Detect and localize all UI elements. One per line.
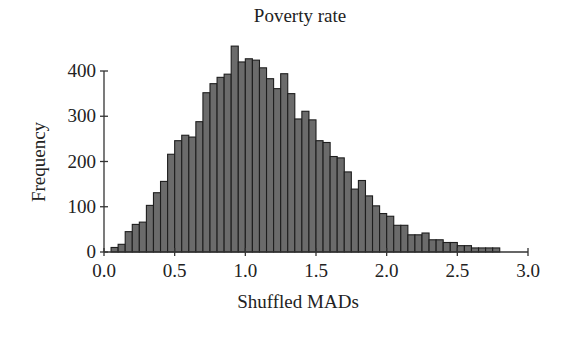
histogram-bar bbox=[274, 89, 281, 252]
histogram-bar bbox=[118, 244, 125, 252]
histogram-bar bbox=[146, 205, 153, 252]
y-axis: 0100200300400 bbox=[68, 60, 109, 262]
histogram-bar bbox=[267, 79, 274, 252]
histogram-bar bbox=[175, 141, 182, 252]
histogram-bar bbox=[373, 206, 380, 252]
histogram-bar bbox=[394, 225, 401, 252]
x-tick-label: 0.5 bbox=[163, 260, 187, 281]
histogram-bar bbox=[281, 74, 288, 252]
histogram-bar bbox=[464, 246, 471, 252]
x-tick-label: 1.0 bbox=[233, 260, 257, 281]
histogram-bars bbox=[111, 46, 500, 252]
histogram-bar bbox=[457, 246, 464, 252]
histogram-bar bbox=[224, 74, 231, 252]
histogram-bar bbox=[196, 122, 203, 252]
y-tick-label: 100 bbox=[68, 196, 97, 217]
histogram-bar bbox=[330, 157, 337, 252]
histogram-bar bbox=[288, 94, 295, 252]
histogram-bar bbox=[323, 143, 330, 253]
histogram-bar bbox=[217, 77, 224, 252]
x-axis: 0.00.51.01.52.02.53.0 bbox=[92, 248, 540, 281]
y-tick-label: 200 bbox=[68, 151, 97, 172]
x-tick-label: 1.5 bbox=[304, 260, 328, 281]
histogram-bar bbox=[337, 158, 344, 252]
y-tick-label: 300 bbox=[68, 105, 97, 126]
histogram-bar bbox=[387, 216, 394, 252]
histogram-bar bbox=[203, 93, 210, 252]
histogram-bar bbox=[231, 46, 238, 252]
histogram-bar bbox=[259, 68, 266, 252]
histogram-bar bbox=[295, 119, 302, 252]
x-axis-label: Shuffled MADs bbox=[237, 291, 359, 312]
histogram-bar bbox=[168, 154, 175, 252]
x-tick-label: 3.0 bbox=[516, 260, 540, 281]
histogram-bar bbox=[358, 181, 365, 253]
histogram-bar bbox=[450, 243, 457, 253]
histogram-bar bbox=[245, 59, 252, 252]
histogram-bar bbox=[365, 196, 372, 252]
histogram-bar bbox=[415, 235, 422, 252]
histogram-bar bbox=[302, 111, 309, 252]
histogram-bar bbox=[238, 62, 245, 252]
histogram-bar bbox=[351, 189, 358, 252]
histogram-bar bbox=[153, 193, 160, 252]
histogram-bar bbox=[344, 172, 351, 252]
histogram-bar bbox=[380, 214, 387, 252]
y-tick-label: 0 bbox=[87, 241, 97, 262]
histogram-chart: Poverty rate 0100200300400 0.00.51.01.52… bbox=[0, 0, 573, 338]
x-tick-label: 2.0 bbox=[375, 260, 399, 281]
histogram-bar bbox=[436, 240, 443, 252]
histogram-bar bbox=[210, 84, 217, 252]
histogram-bar bbox=[139, 222, 146, 252]
histogram-bar bbox=[111, 247, 118, 252]
chart-title: Poverty rate bbox=[254, 5, 346, 26]
histogram-bar bbox=[189, 137, 196, 252]
y-axis-label: Frequency bbox=[28, 121, 49, 202]
histogram-bar bbox=[132, 224, 139, 252]
histogram-bar bbox=[316, 141, 323, 252]
histogram-bar bbox=[161, 181, 168, 252]
histogram-bar bbox=[429, 240, 436, 252]
histogram-bar bbox=[408, 235, 415, 252]
histogram-bar bbox=[182, 135, 189, 252]
x-tick-label: 0.0 bbox=[92, 260, 116, 281]
histogram-bar bbox=[401, 225, 408, 252]
histogram-bar bbox=[125, 232, 132, 252]
x-tick-label: 2.5 bbox=[445, 260, 469, 281]
histogram-bar bbox=[422, 233, 429, 252]
y-tick-label: 400 bbox=[68, 60, 97, 81]
histogram-bar bbox=[443, 243, 450, 253]
histogram-bar bbox=[309, 120, 316, 252]
histogram-bar bbox=[252, 60, 259, 252]
